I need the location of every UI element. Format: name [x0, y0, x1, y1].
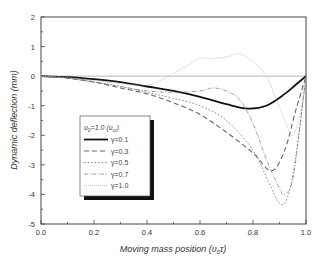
y-tick-label: -4 — [28, 190, 35, 199]
legend-item-label: γ=0.5 — [111, 159, 128, 167]
y-tick-label: -3 — [28, 161, 35, 170]
x-axis-title: Moving mass position (υ0τ) — [120, 244, 227, 255]
y-tick-label: 2 — [31, 13, 35, 22]
legend: υ0=1.0 (υcr) γ=0.1γ=0.3γ=0.5γ=0.7γ=1.0 — [80, 116, 154, 200]
y-tick-label: 1 — [31, 43, 35, 52]
x-tick-label: 0.2 — [89, 228, 99, 237]
x-tick-label: 0.8 — [248, 228, 258, 237]
x-tick-label: 0.0 — [36, 228, 46, 237]
y-tick-label: 0 — [31, 72, 35, 81]
x-tick-label: 0.4 — [142, 228, 152, 237]
y-tick-label: -2 — [28, 131, 35, 140]
x-tick-label: 1.0 — [301, 228, 311, 237]
axis-ticks: 0.00.20.40.60.81.0210-1-2-3-4-5 — [28, 13, 311, 237]
y-tick-label: -5 — [28, 220, 35, 229]
y-tick-label: -1 — [28, 102, 35, 111]
deflection-chart: 0.00.20.40.60.81.0210-1-2-3-4-5 υ0=1.0 (… — [0, 0, 326, 268]
legend-item-label: γ=0.7 — [111, 171, 128, 179]
y-axis-title: Dynamic deflection (mm) — [9, 70, 19, 170]
legend-item-label: γ=0.1 — [111, 136, 128, 144]
legend-item-label: γ=0.3 — [111, 148, 128, 156]
legend-item-label: γ=1.0 — [111, 182, 128, 190]
x-tick-label: 0.6 — [195, 228, 205, 237]
